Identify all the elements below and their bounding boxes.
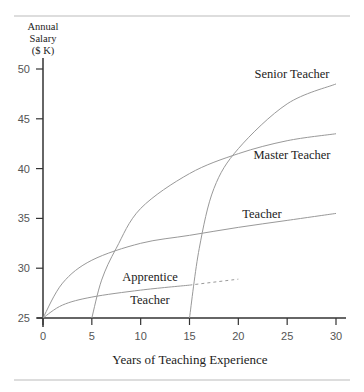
apprentice-label-line1: Apprentice: [122, 270, 178, 284]
teacher-label: Teacher: [242, 207, 282, 221]
y-tick-label: 50: [18, 63, 30, 75]
x-tick-label: 25: [281, 330, 293, 342]
x-tick-label: 15: [183, 330, 195, 342]
y-axis-label: Salary: [30, 33, 58, 44]
apprentice-projection-line: [190, 279, 239, 285]
y-tick-label: 45: [18, 113, 30, 125]
x-tick-label: 10: [135, 330, 147, 342]
x-tick-label: 30: [330, 330, 342, 342]
x-tick-label: 0: [40, 330, 46, 342]
y-tick-label: 30: [18, 262, 30, 274]
x-tick-label: 5: [89, 330, 95, 342]
teacher-line: [43, 213, 336, 318]
x-tick-label: 20: [232, 330, 244, 342]
chart-svg: 253035404550051015202530AnnualSalary($ K…: [0, 0, 364, 392]
y-axis-label: Annual: [28, 21, 59, 32]
chart: 253035404550051015202530AnnualSalary($ K…: [0, 0, 364, 392]
apprentice-label-line2: Teacher: [130, 293, 170, 307]
y-tick-label: 25: [18, 312, 30, 324]
senior-teacher-label: Senior Teacher: [255, 67, 331, 81]
x-axis-label: Years of Teaching Experience: [112, 352, 268, 367]
senior-teacher-line: [190, 84, 337, 318]
y-tick-label: 40: [18, 163, 30, 175]
y-axis-label: ($ K): [32, 45, 55, 57]
master-teacher-label: Master Teacher: [254, 148, 332, 162]
y-tick-label: 35: [18, 212, 30, 224]
